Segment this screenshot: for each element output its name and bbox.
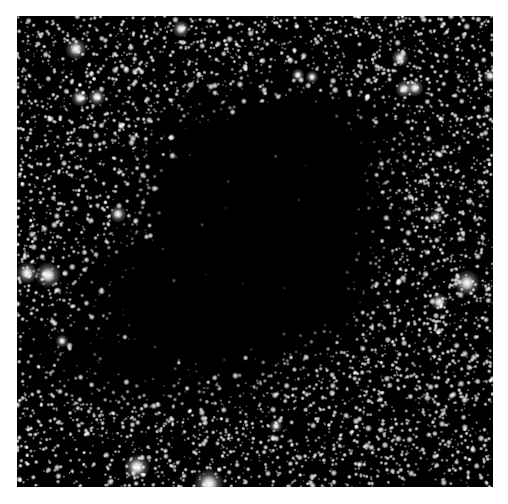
- nebula-photograph: [17, 16, 493, 487]
- star-field-canvas: [17, 16, 493, 487]
